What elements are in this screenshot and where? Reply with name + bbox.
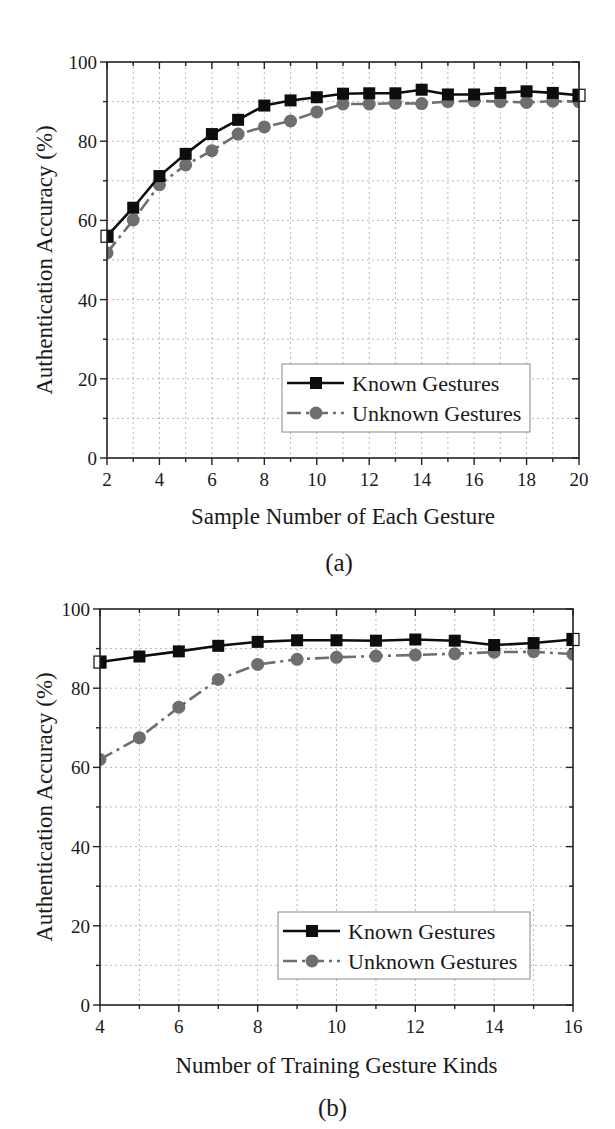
square-marker-icon: [416, 84, 428, 96]
x-tick-label: 8: [260, 469, 270, 490]
x-tick-label: 14: [485, 1016, 505, 1037]
x-axis-label: Sample Number of Each Gesture: [191, 504, 495, 529]
square-marker-icon: [370, 635, 382, 647]
circle-marker-icon: [310, 407, 323, 420]
y-tick-label: 40: [71, 837, 90, 858]
y-tick-label: 0: [88, 448, 98, 469]
circle-marker-icon: [291, 653, 304, 666]
x-tick-labels: 46810121416: [95, 1016, 582, 1037]
legend-label-unknown: Unknown Gestures: [352, 401, 521, 426]
circle-marker-icon: [310, 105, 323, 118]
square-marker-icon: [285, 94, 297, 106]
y-tick-label: 60: [78, 210, 97, 231]
circle-marker-icon: [306, 955, 319, 968]
square-marker-icon: [409, 633, 421, 645]
circle-marker-icon: [369, 650, 382, 663]
circle-marker-icon: [520, 96, 533, 109]
x-tick-label: 2: [102, 469, 112, 490]
x-tick-label: 20: [570, 469, 589, 490]
y-tick-label: 100: [62, 599, 91, 620]
square-marker-icon: [449, 635, 461, 647]
x-tick-label: 14: [412, 469, 432, 490]
x-tick-label: 6: [174, 1016, 184, 1037]
square-marker-icon: [547, 87, 559, 99]
square-marker-icon: [442, 88, 454, 100]
x-tick-labels: 2468101214161820: [102, 469, 588, 490]
circle-marker-icon: [212, 673, 225, 686]
x-tick-label: 16: [564, 1016, 583, 1037]
square-marker-icon: [173, 645, 185, 657]
x-tick-label: 8: [253, 1016, 263, 1037]
circle-marker-icon: [258, 120, 271, 133]
circle-marker-icon: [284, 115, 297, 128]
square-marker-icon: [133, 651, 145, 663]
y-tick-label: 20: [71, 916, 90, 937]
circle-marker-icon: [448, 647, 461, 660]
y-axis-label: Authentication Accuracy (%): [32, 672, 57, 942]
square-marker-icon: [468, 88, 480, 100]
square-marker-icon: [306, 925, 318, 937]
series-unknown-gestures: [101, 94, 586, 259]
circle-marker-icon: [172, 701, 185, 714]
circle-marker-icon: [330, 651, 343, 664]
y-tick-labels: 020406080100: [69, 52, 98, 469]
y-tick-label: 80: [78, 131, 97, 152]
square-marker-icon: [331, 634, 343, 646]
circle-marker-icon: [205, 144, 218, 157]
circle-marker-icon: [127, 214, 140, 227]
circle-marker-icon: [251, 658, 264, 671]
legend: Known Gestures Unknown Gestures: [282, 364, 530, 432]
square-marker-icon: [363, 87, 375, 99]
x-tick-label: 10: [307, 469, 326, 490]
y-tick-label: 100: [69, 52, 98, 73]
square-marker-icon: [291, 634, 303, 646]
square-marker-icon: [212, 640, 224, 652]
circle-marker-icon: [409, 648, 422, 661]
y-axis-label: Authentication Accuracy (%): [32, 125, 57, 395]
y-tick-label: 0: [81, 995, 91, 1016]
panel-label: (b): [318, 1094, 347, 1122]
x-tick-label: 16: [465, 469, 484, 490]
x-tick-label: 4: [155, 469, 165, 490]
y-tick-label: 40: [78, 290, 97, 311]
x-tick-label: 4: [95, 1016, 105, 1037]
circle-marker-icon: [179, 158, 192, 171]
x-tick-label: 12: [406, 1016, 425, 1037]
x-axis-label: Number of Training Gesture Kinds: [176, 1053, 498, 1078]
legend-label-known: Known Gestures: [352, 371, 499, 396]
square-marker-icon: [528, 637, 540, 649]
y-tick-labels: 020406080100: [62, 599, 91, 1016]
square-marker-icon: [127, 202, 139, 214]
chart-panel-b: 020406080100 46810121416 Authentication …: [32, 599, 583, 1122]
circle-marker-icon: [363, 97, 376, 110]
y-tick-label: 20: [78, 369, 97, 390]
square-marker-icon: [310, 377, 322, 389]
square-marker-icon: [153, 170, 165, 182]
square-marker-icon: [494, 87, 506, 99]
legend: Known Gestures Unknown Gestures: [278, 912, 530, 979]
square-marker-icon: [337, 88, 349, 100]
panel-label: (a): [325, 549, 353, 577]
circle-marker-icon: [232, 128, 245, 141]
square-marker-icon: [488, 639, 500, 651]
legend-label-unknown: Unknown Gestures: [348, 949, 517, 974]
square-marker-icon: [258, 100, 270, 112]
x-tick-label: 10: [327, 1016, 346, 1037]
square-marker-icon: [521, 85, 533, 97]
circle-marker-icon: [133, 731, 146, 744]
square-marker-icon: [311, 91, 323, 103]
x-tick-label: 12: [360, 469, 379, 490]
circle-marker-icon: [415, 97, 428, 110]
x-tick-label: 18: [517, 469, 536, 490]
figure: 020406080100 2468101214161820 Authentica…: [0, 0, 615, 1129]
legend-label-known: Known Gestures: [348, 919, 495, 944]
square-marker-icon: [206, 128, 218, 140]
chart-panel-a: 020406080100 2468101214161820 Authentica…: [32, 52, 589, 577]
square-marker-icon: [180, 148, 192, 160]
y-tick-label: 80: [71, 678, 90, 699]
square-marker-icon: [389, 87, 401, 99]
square-marker-icon: [232, 114, 244, 126]
square-marker-icon: [252, 636, 264, 648]
y-tick-label: 60: [71, 757, 90, 778]
x-tick-label: 6: [207, 469, 217, 490]
